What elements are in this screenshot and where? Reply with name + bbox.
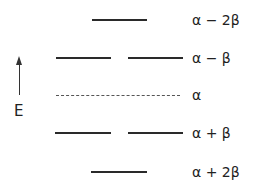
level-alpha-minus-beta-line-right — [128, 57, 183, 59]
level-alpha-plus-2beta-label: α + 2β — [192, 164, 240, 180]
level-alpha-minus-2beta-label: α − 2β — [192, 12, 240, 28]
level-alpha-label: α — [192, 87, 201, 103]
level-alpha-plus-2beta-line — [91, 171, 147, 173]
arrow-shaft — [19, 63, 20, 95]
energy-axis-label: E — [14, 103, 23, 119]
level-alpha-minus-beta-label: α − β — [192, 50, 231, 66]
level-alpha-dashed-line — [56, 95, 180, 96]
level-alpha-plus-beta-line-right — [128, 132, 183, 134]
level-alpha-plus-beta-line-left — [55, 132, 111, 134]
level-alpha-minus-2beta-line — [92, 19, 147, 21]
level-alpha-minus-beta-line-left — [56, 57, 111, 59]
level-alpha-plus-beta-label: α + β — [192, 125, 231, 141]
